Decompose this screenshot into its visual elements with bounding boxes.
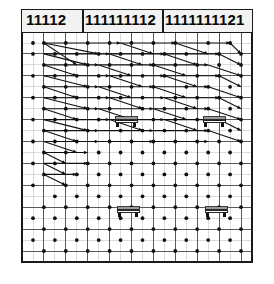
node-dot bbox=[130, 41, 134, 45]
node-dot bbox=[228, 107, 232, 111]
node-dot bbox=[108, 227, 112, 231]
node-dot bbox=[53, 52, 57, 56]
node-dot bbox=[195, 162, 199, 166]
node-dot bbox=[64, 129, 68, 133]
node-dot bbox=[108, 85, 112, 89]
node-dot bbox=[130, 227, 134, 231]
node-dot bbox=[206, 194, 210, 198]
node-dot bbox=[228, 85, 232, 89]
node-dot bbox=[217, 74, 221, 78]
node-dot bbox=[31, 238, 35, 242]
node-dot bbox=[195, 96, 199, 100]
node-dot bbox=[184, 151, 188, 155]
node-dot bbox=[119, 52, 123, 56]
node-dot bbox=[31, 41, 35, 45]
node-dot bbox=[86, 41, 90, 45]
node-dot bbox=[141, 96, 145, 100]
node-dot bbox=[108, 205, 112, 209]
node-dot bbox=[141, 129, 145, 133]
node-dot bbox=[75, 96, 79, 100]
header-group-label-2: 111111112 bbox=[85, 11, 156, 28]
node-dot bbox=[206, 151, 210, 155]
node-dot bbox=[42, 227, 46, 231]
node-dot bbox=[86, 249, 90, 253]
node-dot bbox=[108, 63, 112, 67]
node-dot bbox=[184, 173, 188, 177]
node-dot bbox=[108, 249, 112, 253]
node-dot bbox=[206, 216, 210, 220]
bench-top-plank bbox=[115, 117, 137, 120]
node-dot bbox=[173, 140, 177, 144]
node-dot bbox=[86, 205, 90, 209]
node-dot bbox=[195, 249, 199, 253]
node-dot bbox=[173, 63, 177, 67]
bench-top-plank bbox=[203, 117, 225, 120]
node-dot bbox=[239, 249, 243, 253]
bench-lower-plank bbox=[205, 211, 227, 213]
node-dot bbox=[42, 129, 46, 133]
bench-leg-left bbox=[116, 123, 119, 127]
node-dot bbox=[119, 151, 123, 155]
node-dot bbox=[108, 162, 112, 166]
node-dot bbox=[86, 107, 90, 111]
node-dot bbox=[119, 238, 123, 242]
node-dot bbox=[163, 52, 167, 56]
node-dot bbox=[130, 162, 134, 166]
node-dot bbox=[173, 227, 177, 231]
node-dot bbox=[119, 216, 123, 220]
node-dot bbox=[53, 238, 57, 242]
node-dot bbox=[217, 227, 221, 231]
node-dot bbox=[130, 249, 134, 253]
node-dot bbox=[97, 194, 101, 198]
node-dot bbox=[195, 63, 199, 67]
node-dot bbox=[97, 118, 101, 122]
node-dot bbox=[108, 41, 112, 45]
node-dot bbox=[31, 74, 35, 78]
node-dot bbox=[119, 194, 123, 198]
node-dot bbox=[86, 227, 90, 231]
node-dot bbox=[141, 194, 145, 198]
bench-leg-right bbox=[135, 213, 138, 217]
node-dot bbox=[184, 52, 188, 56]
node-dot bbox=[108, 140, 112, 144]
node-dot bbox=[163, 194, 167, 198]
bench-lower-plank bbox=[203, 121, 225, 123]
node-dot bbox=[152, 85, 156, 89]
node-dot bbox=[75, 194, 79, 198]
node-dot bbox=[239, 63, 243, 67]
node-dot bbox=[53, 140, 57, 144]
node-dot bbox=[64, 227, 68, 231]
node-dot bbox=[97, 151, 101, 155]
node-dot bbox=[97, 238, 101, 242]
node-dot bbox=[31, 140, 35, 144]
node-dot bbox=[152, 249, 156, 253]
node-dot bbox=[152, 183, 156, 187]
header-group-label-1: 11112 bbox=[26, 11, 66, 28]
node-dot bbox=[64, 85, 68, 89]
node-dot bbox=[173, 205, 177, 209]
node-dot bbox=[152, 118, 156, 122]
node-dot bbox=[42, 41, 46, 45]
node-dot bbox=[173, 183, 177, 187]
node-dot bbox=[217, 183, 221, 187]
node-dot bbox=[53, 118, 57, 122]
node-dot bbox=[163, 151, 167, 155]
node-dot bbox=[228, 238, 232, 242]
node-dot bbox=[228, 216, 232, 220]
node-dot bbox=[64, 205, 68, 209]
bench-leg-right bbox=[223, 213, 226, 217]
bench-lower-plank bbox=[117, 211, 139, 213]
node-dot bbox=[239, 227, 243, 231]
node-dot bbox=[75, 140, 79, 144]
node-dot bbox=[130, 85, 134, 89]
node-dot bbox=[163, 74, 167, 78]
node-dot bbox=[228, 194, 232, 198]
node-dot bbox=[163, 238, 167, 242]
figure-container: 111121111111121111111121 bbox=[0, 0, 274, 284]
node-dot bbox=[31, 52, 35, 56]
node-dot bbox=[141, 52, 145, 56]
node-dot bbox=[239, 118, 243, 122]
node-dot bbox=[228, 151, 232, 155]
bench-lower-plank bbox=[115, 121, 137, 123]
node-dot bbox=[217, 162, 221, 166]
